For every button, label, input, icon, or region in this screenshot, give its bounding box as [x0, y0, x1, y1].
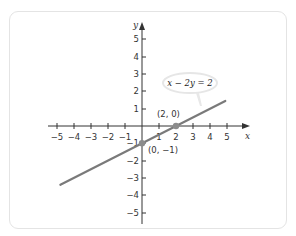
x-tick-label: 3 [190, 132, 195, 142]
x-tick-label: 2 [173, 132, 178, 142]
y-tick-label: 1 [134, 104, 139, 114]
y-tick-label: −2 [126, 156, 139, 166]
point-label-2-0: (2, 0) [157, 109, 180, 119]
x-axis-arrow-icon [242, 123, 250, 129]
x-tick-label: −3 [85, 132, 98, 142]
point-0-minus-1 [139, 140, 145, 146]
y-tick-label: 2 [134, 86, 139, 96]
x-tick-label: 4 [207, 132, 212, 142]
callout-pointer [196, 93, 202, 106]
y-tick-label: −4 [126, 190, 139, 200]
y-tick-label: 5 [134, 34, 139, 44]
point-2-0 [173, 123, 179, 129]
y-tick-label: −5 [126, 208, 139, 218]
y-tick-label: −3 [126, 173, 139, 183]
coordinate-plane: −5 −4 −3 −2 −1 1 2 3 4 5 5 4 3 2 1 −1 −2… [0, 0, 296, 236]
y-axis-title: y [132, 20, 139, 30]
y-tick-label: 3 [134, 69, 139, 79]
point-label-0-minus-1: (0, −1) [148, 145, 178, 155]
y-axis-arrow-icon [139, 22, 145, 30]
y-tick-label: 4 [134, 52, 139, 62]
x-tick-label: 5 [224, 132, 229, 142]
x-tick-label: −4 [68, 132, 81, 142]
x-tick-label: −2 [102, 132, 115, 142]
x-tick-label: −5 [51, 132, 64, 142]
equation-label: x − 2y = 2 [167, 78, 212, 88]
x-axis-title: x [245, 131, 250, 141]
